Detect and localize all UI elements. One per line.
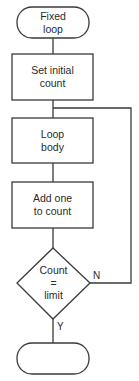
body-label-line-1: Loop — [41, 128, 64, 141]
body-process-label: Loop body — [12, 118, 93, 163]
body-label-line-2: body — [41, 141, 64, 154]
increment-label-line-1: Add one — [33, 192, 72, 205]
start-label-line-1: Fixed — [40, 10, 66, 23]
start-label-line-2: loop — [43, 23, 63, 36]
check-label-line-3: limit — [44, 289, 63, 302]
end-terminal-shape — [17, 343, 89, 374]
start-terminal-label: Fixed loop — [17, 7, 89, 38]
check-label-line-2: = — [50, 277, 56, 290]
increment-process-label: Add one to count — [12, 182, 93, 228]
init-label-line-2: count — [40, 77, 66, 90]
edge-label-no: N — [93, 270, 100, 281]
init-process-label: Set initial count — [12, 54, 93, 100]
check-decision-label: Count = limit — [17, 261, 90, 305]
init-label-line-1: Set initial — [31, 64, 74, 77]
check-label-line-1: Count — [39, 264, 67, 277]
edge-label-yes: Y — [57, 321, 64, 332]
increment-label-line-2: to count — [34, 205, 71, 218]
